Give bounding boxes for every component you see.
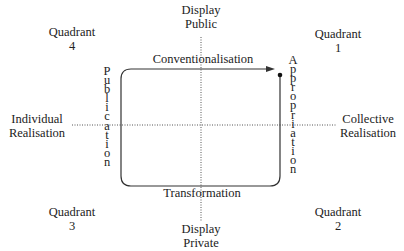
quadrant-4-title: Quadrant [40, 25, 104, 39]
cycle-label-top: Conventionalisation [148, 52, 258, 66]
axis-top-line2: Public [171, 17, 231, 31]
quadrant-1-number: 1 [306, 41, 370, 55]
arrow-head-icon [266, 66, 275, 72]
cycle-label-left: Publication [101, 67, 113, 167]
axis-bottom-line1: Display [171, 222, 231, 236]
quadrant-3-number: 3 [40, 219, 104, 233]
axis-label-top: Display Public [171, 3, 231, 31]
quadrant-4-number: 4 [40, 39, 104, 53]
start-dot-icon [278, 73, 283, 78]
cycle-label-bottom: Transformation [160, 186, 244, 200]
quadrant-2-label: Quadrant 2 [306, 205, 370, 233]
axis-label-right: Collective Realisation [334, 112, 402, 140]
quadrant-1-title: Quadrant [306, 27, 370, 41]
axis-left-line2: Realisation [2, 126, 72, 140]
axis-label-bottom: Display Private [171, 222, 231, 250]
axis-left-line1: Individual [2, 112, 72, 126]
vertical-letter: n [101, 158, 113, 167]
axis-right-line1: Collective [334, 112, 402, 126]
quadrant-2-number: 2 [306, 219, 370, 233]
quadrant-1-label: Quadrant 1 [306, 27, 370, 55]
vertical-letter: n [287, 165, 299, 174]
axis-bottom-line2: Private [171, 236, 231, 250]
axis-top-line1: Display [171, 3, 231, 17]
axis-label-left: Individual Realisation [2, 112, 72, 140]
cycle-label-right: Appropriation [287, 56, 299, 174]
quadrant-3-label: Quadrant 3 [40, 205, 104, 233]
axis-right-line2: Realisation [334, 126, 402, 140]
quadrant-3-title: Quadrant [40, 205, 104, 219]
quadrant-4-label: Quadrant 4 [40, 25, 104, 53]
quadrant-2-title: Quadrant [306, 205, 370, 219]
